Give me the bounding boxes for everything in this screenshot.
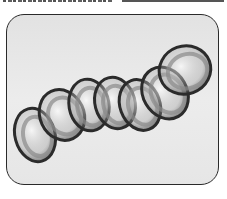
cut-off-caption [0, 0, 227, 4]
figure-panel [6, 14, 219, 185]
ring-chain-illustration [7, 15, 219, 185]
caption-rule [122, 0, 224, 2]
caption-text-fragment [3, 0, 113, 2]
